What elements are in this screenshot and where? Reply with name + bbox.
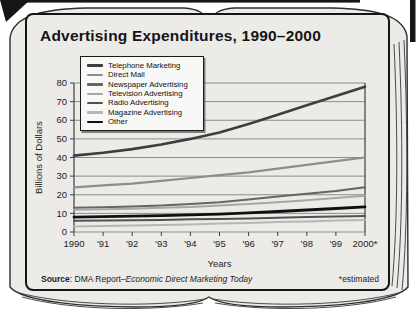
legend-item: Other <box>87 117 197 126</box>
legend-label: Newspaper Advertising <box>108 81 188 89</box>
x-tick-label: '93 <box>155 238 167 249</box>
legend-swatch <box>87 83 103 85</box>
y-tick-label: 60 <box>56 114 67 125</box>
x-tick-label: '98 <box>301 238 313 249</box>
book-page: Advertising Expenditures, 1990–2000 0102… <box>0 0 418 322</box>
estimated-note: *estimated <box>339 274 379 284</box>
book-cover-top-edge <box>24 0 360 3</box>
legend-swatch <box>87 102 103 104</box>
series-line-direct-mail <box>74 158 365 188</box>
legend-swatch <box>87 121 103 124</box>
y-axis-title: Billions of Dollars <box>31 83 45 232</box>
chart-card: Advertising Expenditures, 1990–2000 0102… <box>25 13 390 291</box>
x-tick-label: '92 <box>126 238 138 249</box>
legend-item: Radio Advertising <box>87 99 197 108</box>
y-tick-label: 40 <box>56 152 67 163</box>
x-tick-label: '91 <box>97 238 109 249</box>
legend-item: Newspaper Advertising <box>87 80 197 89</box>
x-tick-label: '97 <box>272 238 284 249</box>
y-tick-label: 80 <box>56 77 67 88</box>
legend-swatch <box>87 93 103 95</box>
legend-label: Direct Mail <box>108 71 145 79</box>
legend-label: Magazine Advertising <box>108 109 182 117</box>
y-tick-label: 0 <box>62 226 67 237</box>
book-cover-corner-right <box>410 0 416 42</box>
legend-swatch <box>87 111 103 113</box>
x-tick-label: '95 <box>213 238 225 249</box>
y-tick-label: 30 <box>56 170 67 181</box>
y-tick-label: 50 <box>56 133 67 144</box>
x-tick-label: '96 <box>242 238 254 249</box>
x-tick-label: 1990 <box>63 238 84 249</box>
legend-item: Magazine Advertising <box>87 108 197 117</box>
x-axis-title: Years <box>74 258 365 269</box>
source-publication: Economic Direct Marketing Today <box>126 274 253 284</box>
legend-label: Telephone Marketing <box>108 62 180 70</box>
legend-label: Other <box>108 118 128 126</box>
x-tick-label: '94 <box>184 238 196 249</box>
legend-label: Radio Advertising <box>108 99 169 107</box>
x-tick-label: 2000* <box>353 238 378 249</box>
legend-swatch <box>87 74 103 76</box>
legend-item: Television Advertising <box>87 89 197 98</box>
legend-item: Direct Mail <box>87 70 197 79</box>
y-tick-label: 70 <box>56 96 67 107</box>
source-label: Source <box>41 274 70 284</box>
y-tick-label: 20 <box>56 189 67 200</box>
legend-swatch <box>87 64 103 67</box>
legend-label: Television Advertising <box>108 90 183 98</box>
source-separator: : DMA Report– <box>70 274 126 284</box>
legend-item: Telephone Marketing <box>87 61 197 70</box>
y-tick-label: 10 <box>56 208 67 219</box>
source-note: Source: DMA Report–Economic Direct Marke… <box>41 274 252 284</box>
x-tick-label: '99 <box>330 238 342 249</box>
chart-legend: Telephone MarketingDirect MailNewspaper … <box>80 56 204 131</box>
